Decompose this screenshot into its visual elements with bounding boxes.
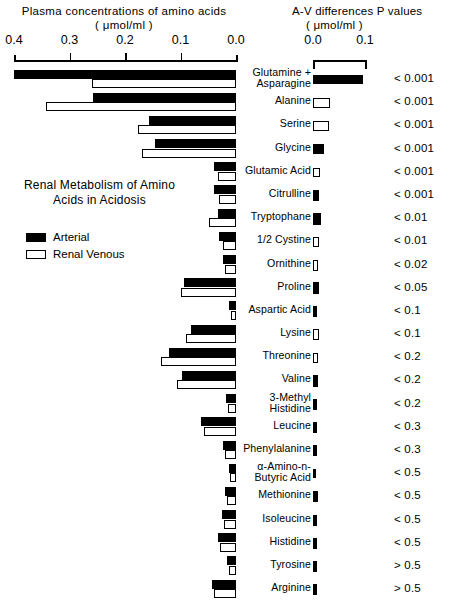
bar-av-difference <box>313 213 321 225</box>
bar-av-difference <box>313 190 319 201</box>
bar-renal-venous <box>142 149 236 158</box>
bar-av-difference <box>313 561 317 572</box>
row-label-line-1: Citrulline <box>240 188 311 199</box>
left-axis-tick-0.1: 0.1 <box>172 33 189 47</box>
chart-row: 1/2 Cystine< 0.01 <box>0 230 455 253</box>
row-label-line-1: Aspartic Acid <box>240 304 311 315</box>
chart-row: Serine< 0.001 <box>0 114 455 137</box>
left-axis-tick-0.0: 0.0 <box>227 33 244 47</box>
bar-arterial <box>184 278 236 287</box>
bar-renal-venous <box>228 404 236 413</box>
row-label: Glutamine +Asparagine <box>240 67 311 89</box>
chart-row: Glycine< 0.001 <box>0 138 455 161</box>
row-label-line-1: Methionine <box>240 489 311 500</box>
p-value: < 0.01 <box>394 211 428 223</box>
bar-renal-venous <box>225 265 236 274</box>
row-label: Aspartic Acid <box>240 304 311 315</box>
left-panel-header: Plasma concentrations of amino acids ( μ… <box>8 4 240 32</box>
p-value: > 0.5 <box>394 582 421 594</box>
chart-row: Aspartic Acid< 0.1 <box>0 300 455 323</box>
row-label-line-2: Asparagine <box>240 78 311 89</box>
row-label-line-1: Arginine <box>240 582 311 593</box>
row-label-line-1: Leucine <box>240 420 311 431</box>
bar-renal-venous <box>209 218 236 227</box>
p-value: < 0.001 <box>394 72 434 84</box>
row-label: α-Amino-n-Butyric Acid <box>240 461 311 483</box>
chart-row: Ornithine< 0.02 <box>0 254 455 277</box>
bar-renal-venous <box>225 450 236 459</box>
row-label-line-1: Tryptophane <box>240 211 311 222</box>
left-axis-tick-0.4: 0.4 <box>5 33 22 47</box>
row-label: Citrulline <box>240 188 311 199</box>
bar-renal-venous <box>177 380 236 389</box>
row-label-line-1: Serine <box>240 118 311 129</box>
right-axis-tick-0.0: 0.0 <box>304 33 321 47</box>
left-axis-tickmark <box>14 55 16 62</box>
p-value: < 0.05 <box>394 281 428 293</box>
row-label: Isoleucine <box>240 513 311 524</box>
row-label-line-1: 1/2 Cystine <box>240 234 311 245</box>
bar-arterial <box>226 394 236 403</box>
p-value: < 0.5 <box>394 513 421 525</box>
bar-arterial <box>222 510 236 519</box>
bar-renal-venous <box>231 311 236 320</box>
row-label: Methionine <box>240 489 311 500</box>
chart-row: Isoleucine< 0.5 <box>0 509 455 532</box>
bar-av-difference <box>313 469 316 478</box>
bar-arterial <box>218 209 236 218</box>
bar-renal-venous <box>223 241 236 250</box>
bar-arterial <box>214 185 236 194</box>
left-axis-tick-0.2: 0.2 <box>116 33 133 47</box>
bar-av-difference <box>313 515 317 526</box>
chart-row: Leucine< 0.3 <box>0 416 455 439</box>
left-axis-tick-0.3: 0.3 <box>61 33 78 47</box>
chart-row: Methionine< 0.5 <box>0 485 455 508</box>
row-label: Valine <box>240 373 311 384</box>
row-label: Leucine <box>240 420 311 431</box>
row-label-line-1: Proline <box>240 281 311 292</box>
bar-av-difference <box>313 329 319 340</box>
p-value: < 0.5 <box>394 466 421 478</box>
bar-renal-venous <box>229 566 236 575</box>
bar-renal-venous <box>181 288 237 297</box>
row-label-line-1: 3-Methyl <box>240 392 311 403</box>
chart-row: 3-MethylHistidine< 0.2 <box>0 393 455 416</box>
bar-av-difference <box>313 168 320 178</box>
row-label: Phenylalanine <box>240 443 311 454</box>
p-value: < 0.2 <box>394 397 421 409</box>
p-value: < 0.1 <box>394 327 421 339</box>
left-axis-tickmark <box>70 53 72 61</box>
bar-av-difference <box>313 422 317 433</box>
p-value: < 0.001 <box>394 95 434 107</box>
row-label: Alanine <box>240 95 311 106</box>
bar-arterial <box>219 232 236 241</box>
bar-renal-venous <box>220 543 236 552</box>
bar-renal-venous <box>219 195 236 204</box>
row-label-line-1: Alanine <box>240 95 311 106</box>
row-label: Lysine <box>240 327 311 338</box>
p-value: < 0.2 <box>394 350 421 362</box>
row-label: Ornithine <box>240 258 311 269</box>
chart-row: Proline< 0.05 <box>0 277 455 300</box>
bar-arterial <box>201 417 236 426</box>
p-value: < 0.02 <box>394 258 428 270</box>
chart-rows: Glutamine +Asparagine< 0.001Alanine< 0.0… <box>0 68 455 601</box>
bar-renal-venous <box>230 473 236 482</box>
row-label: Glycine <box>240 142 311 153</box>
bar-arterial <box>182 371 236 380</box>
row-label-line-1: Glycine <box>240 142 311 153</box>
left-axis-tick-labels: 0.40.30.20.10.0 <box>0 33 250 49</box>
p-value: < 0.001 <box>394 118 434 130</box>
row-label: Tyrosine <box>240 559 311 570</box>
left-axis-tickmark <box>125 53 127 61</box>
bar-arterial <box>155 139 236 148</box>
p-value: < 0.001 <box>394 142 434 154</box>
chart-row: Histidine< 0.5 <box>0 532 455 555</box>
row-label-line-1: Glutamic Acid <box>240 165 311 176</box>
row-label: Tryptophane <box>240 211 311 222</box>
row-label-line-1: Ornithine <box>240 258 311 269</box>
bar-arterial <box>93 93 236 102</box>
p-value: < 0.2 <box>394 373 421 385</box>
chart-row: Lysine< 0.1 <box>0 323 455 346</box>
